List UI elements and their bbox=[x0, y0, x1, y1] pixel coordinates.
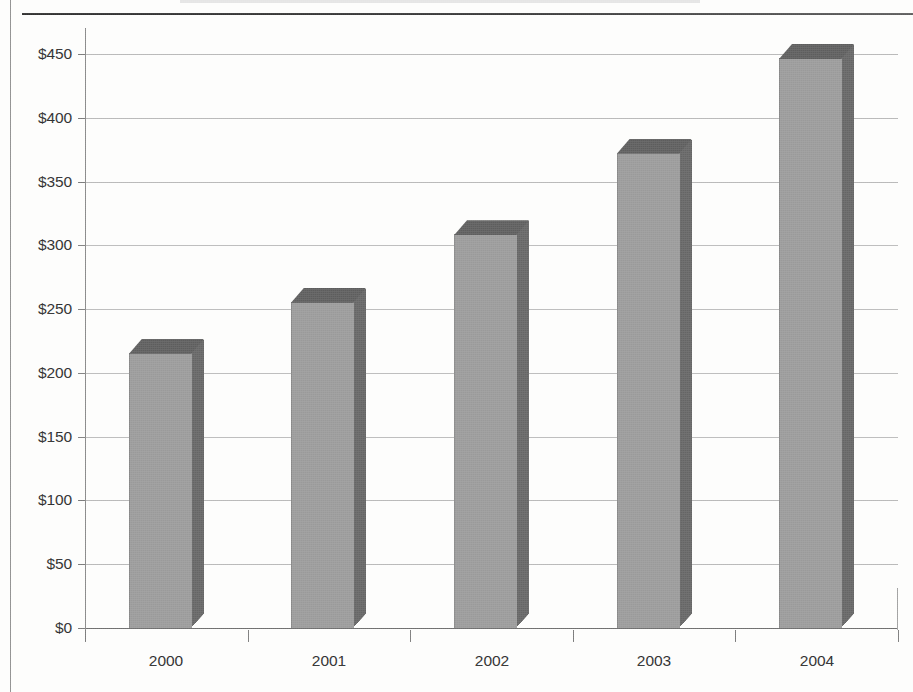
y-axis-tick bbox=[78, 437, 85, 438]
bar-side-bevel bbox=[353, 614, 366, 628]
chart-bars bbox=[85, 28, 898, 630]
y-axis-tick bbox=[78, 564, 85, 565]
bar-top-face bbox=[291, 288, 366, 303]
bar-2004 bbox=[779, 45, 854, 628]
y-axis-tick bbox=[78, 309, 85, 310]
bar-side-face bbox=[841, 45, 854, 614]
bar-side-bevel bbox=[516, 614, 529, 628]
y-axis-tick bbox=[78, 245, 85, 246]
page-left-border-rule bbox=[10, 0, 11, 692]
bar-front-face bbox=[617, 153, 680, 629]
y-axis-label-100: $100 bbox=[38, 491, 72, 509]
y-axis-label-50: $50 bbox=[46, 555, 72, 573]
y-axis-label-350: $350 bbox=[38, 173, 72, 191]
x-axis-tick bbox=[85, 630, 86, 642]
x-axis: 20002001200220032004 bbox=[85, 630, 898, 692]
bar-front-face bbox=[129, 353, 192, 628]
scanned-page: $0$50$100$150$200$250$300$350$400$450 20… bbox=[0, 0, 913, 692]
x-axis-tick bbox=[898, 630, 899, 642]
y-axis-tick bbox=[78, 118, 85, 119]
x-axis-tick bbox=[248, 630, 249, 642]
y-axis-label-0: $0 bbox=[55, 619, 72, 637]
bar-2003 bbox=[617, 140, 692, 629]
bar-2000 bbox=[129, 340, 204, 628]
bar-side-bevel bbox=[191, 614, 204, 628]
y-axis-label-450: $450 bbox=[38, 45, 72, 63]
bar-2002 bbox=[454, 221, 529, 628]
y-axis-tick bbox=[78, 54, 85, 55]
bar-side-face bbox=[679, 140, 692, 615]
x-axis-tick bbox=[735, 630, 736, 642]
bar-side-face bbox=[353, 289, 366, 614]
x-axis-label-2003: 2003 bbox=[637, 652, 671, 670]
x-axis-tick bbox=[410, 630, 411, 642]
y-axis-tick bbox=[78, 500, 85, 501]
x-axis-label-2002: 2002 bbox=[475, 652, 509, 670]
chart-plot-area: $0$50$100$150$200$250$300$350$400$450 20… bbox=[85, 28, 898, 630]
bar-side-face bbox=[191, 340, 204, 614]
y-axis-tick bbox=[78, 373, 85, 374]
y-axis-label-400: $400 bbox=[38, 109, 72, 127]
bar-side-face bbox=[516, 221, 529, 614]
page-top-faint-artifact bbox=[180, 0, 700, 3]
x-axis-label-2000: 2000 bbox=[149, 652, 183, 670]
x-axis-tick bbox=[573, 630, 574, 642]
bar-side-bevel bbox=[841, 614, 854, 628]
bar-front-face bbox=[291, 302, 354, 628]
y-axis-tick bbox=[78, 628, 85, 629]
y-axis-label-250: $250 bbox=[38, 300, 72, 318]
bar-top-face bbox=[454, 220, 529, 235]
bar-top-face bbox=[779, 44, 854, 59]
bar-2001 bbox=[291, 289, 366, 628]
x-axis-label-2001: 2001 bbox=[312, 652, 346, 670]
bar-front-face bbox=[779, 58, 842, 628]
page-top-horizontal-rule bbox=[22, 13, 913, 15]
y-axis-tick bbox=[78, 182, 85, 183]
y-axis-label-200: $200 bbox=[38, 364, 72, 382]
bar-front-face bbox=[454, 234, 517, 628]
bar-top-face bbox=[617, 139, 692, 154]
bar-side-bevel bbox=[679, 614, 692, 628]
x-axis-label-2004: 2004 bbox=[800, 652, 834, 670]
y-axis-label-300: $300 bbox=[38, 236, 72, 254]
y-axis-label-150: $150 bbox=[38, 428, 72, 446]
bar-top-face bbox=[129, 339, 204, 354]
